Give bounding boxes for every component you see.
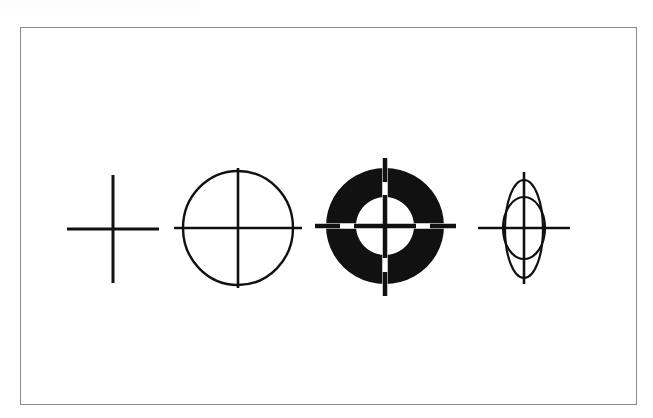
figure-1-plain-cross [67,175,159,283]
diagram-canvas [0,0,653,418]
figure-2-circle-with-cross [174,168,302,288]
figure-4-ellipse-with-inner-circle [478,172,570,284]
figure-3-filled-ring-target [315,158,456,296]
figure-page: Line drawing of four crosshair / target … [0,0,653,418]
